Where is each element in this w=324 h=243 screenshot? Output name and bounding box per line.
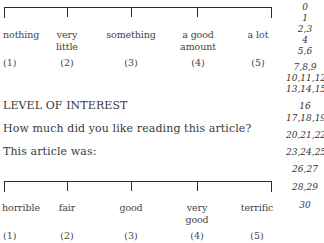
scale-tick — [67, 181, 68, 191]
scale-option-label: nothing — [3, 29, 39, 40]
scale-option-value: (2) — [60, 57, 73, 68]
scale-option-label: horrible — [2, 202, 40, 213]
scale-option-label: fair — [59, 202, 75, 213]
line-number: 2,3 — [286, 24, 324, 34]
scale-tick — [67, 7, 68, 17]
scale-option-label: good — [119, 202, 142, 213]
section-title: LEVEL OF INTEREST — [3, 99, 127, 112]
scale-option-label: little — [56, 41, 78, 52]
scale-option-label: something — [106, 29, 156, 40]
scale-line — [4, 7, 272, 8]
scale-line — [4, 181, 272, 182]
scale-option-value: (4) — [190, 230, 203, 241]
scale-option-label: very — [57, 29, 78, 40]
line-number: 10,11,12 — [286, 73, 324, 83]
scale-option-label: terrific — [241, 202, 274, 213]
scale-tick — [131, 7, 132, 17]
line-number: 7,8,9 — [286, 62, 324, 72]
line-number: 0 — [286, 2, 324, 12]
scale-tick — [4, 7, 5, 18]
line-number: 13,14,15 — [286, 84, 324, 94]
scale-tick — [4, 181, 5, 192]
line-number: 17,18,19 — [286, 113, 324, 123]
line-number: 23,24,25 — [286, 147, 324, 157]
scale-tick — [197, 181, 198, 191]
scale-option-value: (3) — [124, 57, 137, 68]
scale-option-value: (4) — [191, 57, 204, 68]
line-number: 20,21,22 — [286, 130, 324, 140]
line-number: 16 — [286, 101, 324, 111]
scale-option-label: a lot — [248, 29, 269, 40]
line-number: 5,6 — [286, 46, 324, 56]
scale-option-label: good — [185, 214, 208, 225]
scale-option-value: (5) — [251, 57, 264, 68]
scale-option-label: very — [187, 202, 208, 213]
scale-option-value: (3) — [124, 230, 137, 241]
scale-option-value: (2) — [60, 230, 73, 241]
scale-tick — [271, 7, 272, 18]
scale-option-value: (1) — [3, 57, 16, 68]
prompt-text: This article was: — [3, 145, 97, 158]
scale-option-label: amount — [180, 41, 216, 52]
line-number: 30 — [286, 200, 324, 210]
scale-option-value: (5) — [250, 230, 263, 241]
line-number: 26,27 — [286, 164, 324, 174]
scale-option-value: (1) — [3, 230, 16, 241]
question-text: How much did you like reading this artic… — [3, 122, 251, 135]
scale-tick — [271, 181, 272, 192]
scale-option-label: a good — [182, 29, 214, 40]
line-number: 28,29 — [286, 182, 324, 192]
scale-tick — [197, 7, 198, 17]
line-number: 4 — [286, 35, 324, 45]
scale-tick — [131, 181, 132, 191]
line-number: 1 — [286, 13, 324, 23]
